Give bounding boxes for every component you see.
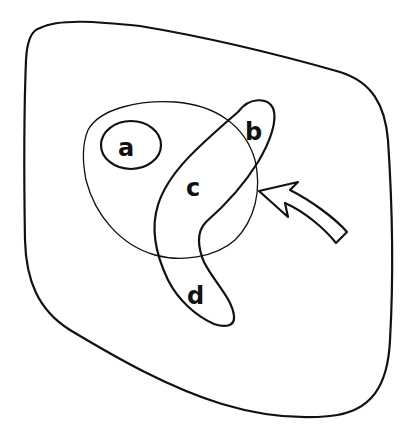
label-a: a <box>118 134 134 162</box>
label-c: c <box>186 174 200 202</box>
set-diagram: a b c d <box>0 0 409 434</box>
label-b: b <box>245 118 262 146</box>
label-d: d <box>187 282 204 310</box>
arrow-icon <box>259 182 347 243</box>
